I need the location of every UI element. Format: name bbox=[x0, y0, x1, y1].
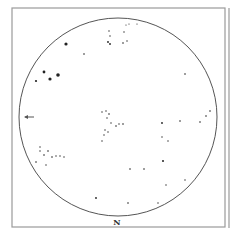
star-dot bbox=[165, 184, 166, 185]
chart-frame bbox=[12, 8, 225, 227]
east-arrow-icon bbox=[24, 115, 34, 119]
stars-group bbox=[35, 23, 211, 203]
star-dot bbox=[209, 110, 211, 112]
star-dot bbox=[123, 31, 124, 32]
star-dot bbox=[43, 71, 46, 74]
star-dot bbox=[136, 23, 137, 24]
star-dot bbox=[122, 42, 124, 44]
star-dot bbox=[128, 23, 129, 24]
star-dot bbox=[109, 43, 111, 45]
star-dot bbox=[95, 197, 97, 199]
star-dot bbox=[55, 155, 56, 156]
star-dot bbox=[59, 155, 60, 156]
star-dot bbox=[39, 150, 40, 151]
north-label: N bbox=[111, 217, 123, 227]
star-dot bbox=[115, 125, 117, 127]
star-dot bbox=[106, 117, 107, 118]
star-dot bbox=[184, 73, 186, 75]
star-dot bbox=[167, 140, 168, 141]
star-dot bbox=[108, 30, 109, 31]
star-dot bbox=[56, 73, 60, 77]
star-dot bbox=[205, 115, 207, 117]
star-dot bbox=[109, 35, 110, 36]
star-dot bbox=[48, 77, 51, 80]
star-dot bbox=[127, 202, 129, 204]
star-dot bbox=[45, 164, 46, 165]
star-dot bbox=[108, 113, 110, 115]
star-dot bbox=[63, 156, 64, 157]
star-dot bbox=[101, 111, 102, 112]
star-dot bbox=[110, 122, 111, 123]
star-dot bbox=[162, 160, 164, 162]
star-dot bbox=[101, 140, 102, 141]
star-dot bbox=[43, 154, 45, 156]
star-dot bbox=[184, 179, 185, 180]
horizon-circle bbox=[19, 18, 217, 216]
star-dot bbox=[125, 24, 126, 25]
star-dot bbox=[161, 136, 162, 137]
star-dot bbox=[103, 134, 104, 135]
star-dot bbox=[39, 146, 40, 147]
star-dot bbox=[35, 80, 37, 82]
star-dot bbox=[199, 121, 201, 123]
star-dot bbox=[129, 168, 131, 170]
star-dot bbox=[143, 168, 145, 170]
star-dot bbox=[64, 42, 67, 45]
star-chart bbox=[0, 0, 232, 236]
star-dot bbox=[122, 123, 124, 125]
star-dot bbox=[126, 40, 127, 41]
star-dot bbox=[107, 41, 109, 43]
star-dot bbox=[157, 202, 158, 203]
star-dot bbox=[179, 120, 181, 122]
star-dot bbox=[51, 156, 53, 158]
star-dot bbox=[35, 161, 37, 163]
star-dot bbox=[161, 122, 163, 124]
star-dot bbox=[105, 110, 106, 111]
star-dot bbox=[83, 53, 85, 55]
star-dot bbox=[104, 129, 105, 130]
star-dot bbox=[47, 150, 49, 152]
star-dot bbox=[118, 123, 119, 124]
star-dot bbox=[107, 131, 108, 132]
